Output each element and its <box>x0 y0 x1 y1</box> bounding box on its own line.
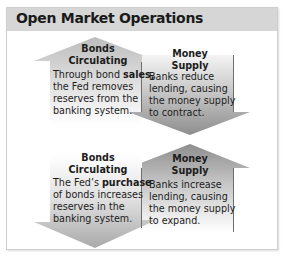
heading-line: Circulating <box>64 164 132 176</box>
body-line: reserves in the <box>53 201 152 213</box>
bottom-right-body: Banks increase lending, causing the mone… <box>149 179 235 227</box>
body-line: to expand. <box>149 215 235 227</box>
body-line: The Fed’s purchase <box>53 177 152 189</box>
heading-line: Circulating <box>68 55 128 67</box>
bottom-left-heading: Bonds Circulating <box>64 152 132 176</box>
body-line: reserves from the <box>53 93 154 105</box>
body-line: Banks reduce <box>149 71 235 83</box>
heading-line: Supply <box>160 165 220 177</box>
top-right-body: Banks reduce lending, causing the money … <box>149 71 235 119</box>
body-line: banking system. <box>53 105 154 117</box>
body-line: of bonds increases <box>53 189 152 201</box>
body-line: banking system. <box>53 213 152 225</box>
body-line: Through bond sales, <box>53 69 154 81</box>
body-line: lending, causing <box>149 83 235 95</box>
body-line: to contract. <box>149 107 235 119</box>
top-right-heading: Money Supply <box>160 48 220 72</box>
body-line: the money supply <box>149 203 235 215</box>
body-line: lending, causing <box>149 191 235 203</box>
body-line: the Fed removes <box>53 81 154 93</box>
top-left-body: Through bond sales, the Fed removes rese… <box>53 69 154 117</box>
bottom-left-body: The Fed’s purchase of bonds increases re… <box>53 177 152 225</box>
bottom-right-heading: Money Supply <box>160 153 220 177</box>
heading-line: Money <box>160 153 220 165</box>
emphasis-text: purchase <box>102 177 152 188</box>
heading-line: Bonds <box>64 152 132 164</box>
heading-line: Money <box>160 48 220 60</box>
top-left-heading: Bonds Circulating <box>68 43 128 67</box>
body-line: Banks increase <box>149 179 235 191</box>
heading-line: Bonds <box>68 43 128 55</box>
body-line: the money supply <box>149 95 235 107</box>
